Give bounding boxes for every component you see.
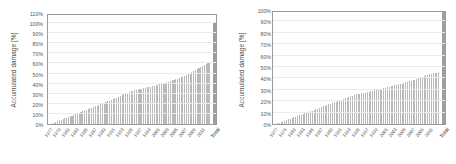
x-axis-ticks: 1977197919811983198519871989199119931995…: [228, 0, 456, 164]
x-tick-label-total: Total: [207, 127, 221, 143]
figure-root: Accumulated damage [%] 0%10%20%30%40%50%…: [0, 0, 456, 164]
x-tick-label-total: Total: [436, 127, 450, 143]
right-chart: Accumulated damage [%] 0%10%20%30%40%50%…: [228, 0, 456, 164]
left-chart: Accumulated damage [%] 0%10%20%30%40%50%…: [0, 0, 228, 164]
x-axis-ticks: 1977197919811983198519871989199119931995…: [0, 0, 228, 164]
